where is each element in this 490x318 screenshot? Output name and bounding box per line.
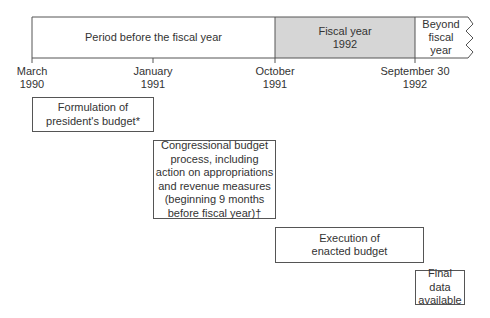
tick-label-september-1992: September 30 1992 (380, 65, 449, 91)
segment-before-fiscal-year: Period before the fiscal year (32, 17, 275, 58)
box-label: Final data available (416, 267, 464, 308)
box-execution: Execution of enacted budget (275, 227, 424, 263)
segment-label: Period before the fiscal year (85, 31, 222, 44)
box-label: Execution of enacted budget (312, 232, 388, 259)
tick-label-january-1991: January 1991 (133, 65, 172, 91)
segment-beyond-fiscal-year: Beyond fiscal year (415, 17, 467, 58)
segment-fiscal-year: Fiscal year 1992 (275, 17, 415, 58)
box-final-data: Final data available (415, 270, 465, 305)
segment-label: Fiscal year 1992 (318, 25, 371, 51)
segment-label: Beyond fiscal year (422, 18, 459, 57)
box-formulation: Formulation of president's budget* (32, 97, 154, 132)
box-congressional: Congressional budget process, including … (153, 140, 276, 219)
tick-label-october-1991: October 1991 (255, 65, 294, 91)
box-label: Congressional budget process, including … (156, 139, 273, 220)
tick-label-march-1990: March 1990 (17, 65, 48, 91)
zigzag-edge (466, 17, 473, 58)
box-label: Formulation of president's budget* (46, 101, 140, 128)
